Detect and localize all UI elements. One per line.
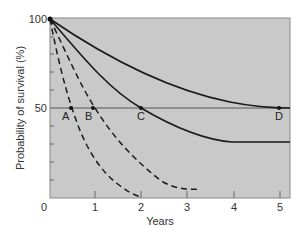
x-tick-3: 3 — [184, 201, 190, 213]
y-tick-100: 100 — [29, 13, 47, 25]
label-c: C — [137, 110, 145, 122]
y-tick-50: 50 — [35, 102, 47, 114]
x-tick-5: 5 — [277, 201, 283, 213]
label-a: A — [62, 110, 70, 122]
x-tick-1: 1 — [92, 201, 98, 213]
survival-chart: A B C D 100 50 0 1 2 3 4 5 Years Probabi… — [0, 0, 303, 236]
x-tick-0: 0 — [41, 201, 47, 213]
label-d: D — [275, 110, 283, 122]
y-axis-title: Probability of survival (%) — [14, 46, 26, 170]
x-axis-title: Years — [146, 215, 174, 227]
x-tick-2: 2 — [138, 201, 144, 213]
x-tick-4: 4 — [231, 201, 237, 213]
label-b: B — [85, 110, 92, 122]
